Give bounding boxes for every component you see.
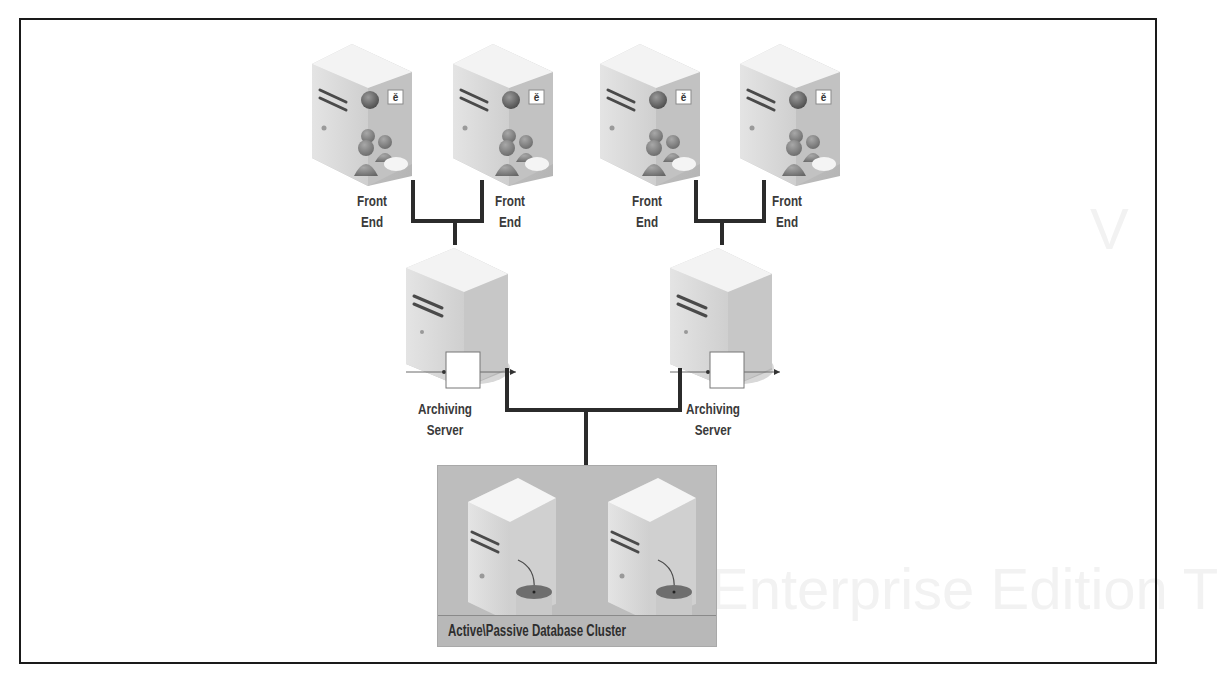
- cluster-label: Active\Passive Database Cluster: [448, 622, 626, 640]
- server-icon: [670, 240, 780, 390]
- connector-fe-pair-2: [694, 219, 766, 223]
- connector-arch1: [505, 368, 509, 412]
- front-end-label-2: Front End: [487, 190, 534, 232]
- connector-fe1: [411, 180, 415, 223]
- connector-arch2: [678, 368, 682, 412]
- server-icon: [600, 36, 700, 186]
- connector-fe3: [694, 180, 698, 223]
- database-server-active: [448, 472, 558, 622]
- server-icon: [406, 240, 516, 390]
- cluster-label-strip: Active\Passive Database Cluster: [438, 615, 716, 646]
- front-end-label-4: Front End: [764, 190, 811, 232]
- archiving-server-label-1: Archiving Server: [410, 398, 480, 440]
- server-icon: [740, 36, 840, 186]
- server-icon: [312, 36, 412, 186]
- database-server-icon: [448, 472, 558, 622]
- connector-to-db-cluster: [584, 408, 588, 466]
- front-end-server-1: [312, 36, 412, 186]
- database-server-passive: [588, 472, 698, 622]
- front-end-server-2: [453, 36, 553, 186]
- archiving-server-2: [670, 240, 780, 390]
- front-end-server-3: [600, 36, 700, 186]
- front-end-label-3: Front End: [624, 190, 671, 232]
- front-end-label-1: Front End: [349, 190, 396, 232]
- connector-arch-pair: [505, 408, 682, 412]
- connector-fe2: [480, 180, 484, 223]
- server-icon: [453, 36, 553, 186]
- database-cluster: Active\Passive Database Cluster: [437, 465, 717, 647]
- archiving-server-1: [406, 240, 516, 390]
- archiving-server-label-2: Archiving Server: [678, 398, 748, 440]
- front-end-server-4: [740, 36, 840, 186]
- database-server-icon: [588, 472, 698, 622]
- connector-fe4: [762, 180, 766, 223]
- connector-fe-pair-1: [411, 219, 484, 223]
